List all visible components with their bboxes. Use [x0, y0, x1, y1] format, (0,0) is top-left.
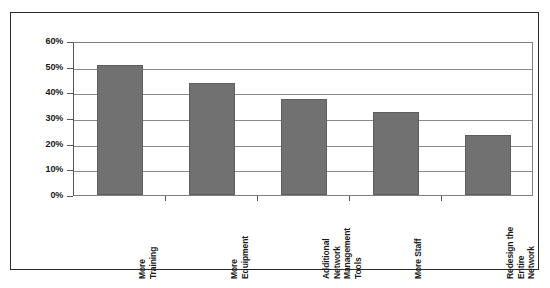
category-axis-label: More Training — [137, 205, 158, 279]
plot-area — [73, 42, 533, 196]
category-axis-tick-mark — [165, 196, 166, 201]
value-axis-tick-label: 50% — [19, 63, 63, 72]
bar — [281, 99, 327, 195]
bar — [97, 65, 143, 195]
category-axis-label: Additional Network Management Tools — [321, 205, 363, 279]
category-axis-tick-mark — [441, 196, 442, 201]
value-axis-tick-label: 20% — [19, 140, 63, 149]
category-axis-tick-mark — [349, 196, 350, 201]
bar — [373, 112, 419, 195]
bar — [189, 83, 235, 195]
value-axis-tick-mark — [67, 196, 73, 197]
category-axis-label: More Staff — [413, 205, 424, 279]
value-axis-tick-label: 60% — [19, 37, 63, 46]
value-axis-tick-label: 0% — [19, 191, 63, 200]
category-axis-label: More Equipment — [229, 205, 250, 279]
category-axis-tick-mark — [257, 196, 258, 201]
category-axis-label: Redesign the Entire Network — [505, 205, 537, 279]
value-axis-tick-label: 10% — [19, 165, 63, 174]
value-axis-tick-label: 30% — [19, 114, 63, 123]
bar — [465, 135, 511, 195]
chart-frame: 0%10%20%30%40%50%60% More TrainingMore E… — [10, 12, 539, 270]
value-axis-tick-label: 40% — [19, 88, 63, 97]
